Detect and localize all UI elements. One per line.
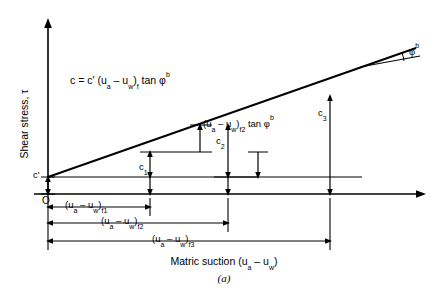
origin-label: O <box>42 196 50 206</box>
c3-dimension-arrow <box>327 94 333 196</box>
x-axis <box>34 190 426 198</box>
middle-annotation-arrow-right <box>248 152 268 179</box>
x-axis-label: Matric suction (ua – uw) <box>0 256 448 267</box>
suction-f1-label: (ua – uw)f1 <box>65 200 107 210</box>
c3-label: c3 <box>318 108 327 118</box>
figure-caption: (a) <box>0 272 448 284</box>
c-prime-label: c' <box>33 170 40 180</box>
suction-f3-label: (ua – uw)f3 <box>152 234 194 244</box>
c1-dimension-arrow <box>147 150 153 179</box>
phi-b-angle-label: φb <box>409 47 419 57</box>
suction-f2-label: (ua – uw)f2 <box>101 216 143 226</box>
y-axis <box>44 18 52 194</box>
c2-label: c2 <box>216 136 225 146</box>
c2-dimension-arrow <box>225 123 231 179</box>
c1-label: c1 <box>139 162 148 172</box>
envelope-equation: c = c' (ua – uw)f tan φb <box>70 75 170 86</box>
c-prime-dimension-arrow <box>41 175 55 196</box>
y-axis-label: Shear stress, τ <box>18 64 30 184</box>
middle-annotation-label: (ua – uw)f2 tan φb <box>203 119 274 129</box>
